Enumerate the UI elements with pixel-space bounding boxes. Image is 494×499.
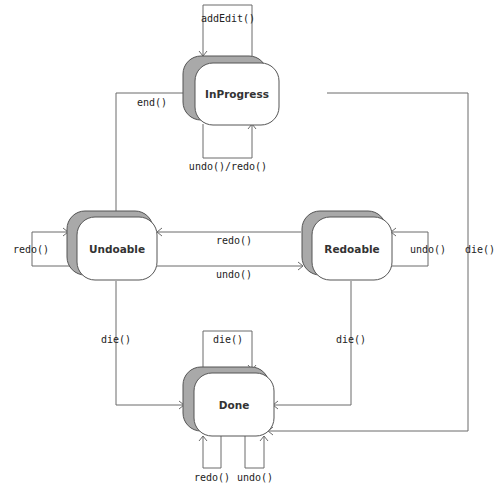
label-done-redo-self: redo() xyxy=(194,472,230,483)
state-undoable[interactable]: Undoable xyxy=(67,211,157,280)
label-end: end() xyxy=(137,97,167,108)
edge-done-redo-self xyxy=(199,436,221,468)
label-undoable-redo-self: redo() xyxy=(13,244,49,255)
edge-inprogress-undoable-end xyxy=(112,93,184,216)
state-label-redoable: Redoable xyxy=(324,243,379,255)
label-inprogress-done-die: die() xyxy=(465,244,494,255)
edge-undoable-done-die xyxy=(116,281,184,409)
state-inprogress[interactable]: InProgress xyxy=(183,56,279,125)
edge-inprogress-undo-redo xyxy=(203,124,256,158)
state-label-done: Done xyxy=(219,399,250,411)
label-addedit: addEdit() xyxy=(201,13,255,24)
state-label-undoable: Undoable xyxy=(89,243,145,255)
label-undoable-done-die: die() xyxy=(101,334,131,345)
edge-done-undo-self xyxy=(245,436,268,468)
state-diagram: InProgress Undoable Redoable Done addEdi… xyxy=(0,0,494,499)
label-redoable-undoable-redo: redo() xyxy=(216,235,252,246)
label-redoable-undo-self: undo() xyxy=(410,244,446,255)
label-redoable-done-die: die() xyxy=(336,334,366,345)
label-done-undo-self: undo() xyxy=(237,472,273,483)
edge-redoable-done-die xyxy=(273,281,351,409)
label-undoable-redoable-undo: undo() xyxy=(216,269,252,280)
state-label-inprogress: InProgress xyxy=(205,88,269,100)
label-done-die-self: die() xyxy=(213,334,243,345)
state-done[interactable]: Done xyxy=(183,367,274,436)
label-inprogress-undo-redo: undo()/redo() xyxy=(189,161,267,172)
state-redoable[interactable]: Redoable xyxy=(302,211,392,280)
